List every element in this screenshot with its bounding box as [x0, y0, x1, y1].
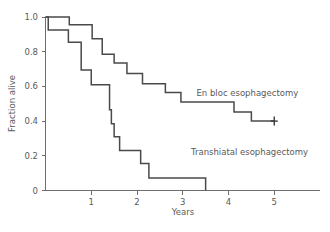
series-curve [46, 17, 206, 191]
y-tick-label: 1.0 [24, 12, 38, 22]
y-tick-label: 0.4 [24, 116, 38, 126]
series-curves [46, 17, 275, 191]
series-label: En bloc esophagectomy [196, 88, 298, 98]
y-axis-ticks [42, 17, 46, 191]
x-axis-ticks [91, 191, 274, 195]
series-inline-labels: En bloc esophagectomyTranshiatal esophag… [190, 88, 308, 157]
x-tick-label: 3 [180, 197, 185, 207]
censor-mark [271, 117, 278, 126]
y-axis-title: Fraction alive [7, 75, 17, 132]
survival-chart-figure: 00.20.40.60.81.0 12345 Fraction alive Ye… [0, 0, 330, 232]
y-axis-tick-labels: 00.20.40.60.81.0 [24, 12, 38, 196]
y-tick-label: 0.6 [24, 81, 38, 91]
survival-chart-svg: 00.20.40.60.81.0 12345 Fraction alive Ye… [0, 0, 330, 232]
x-axis-group: 12345 [46, 191, 321, 208]
y-axis-group: 00.20.40.60.81.0 [24, 12, 45, 196]
x-axis-tick-labels: 12345 [89, 197, 277, 207]
censor-marks-group [271, 117, 278, 126]
y-tick-label: 0.2 [24, 151, 38, 161]
x-tick-label: 2 [134, 197, 139, 207]
series-curve [46, 17, 275, 121]
series-label: Transhiatal esophagectomy [190, 147, 308, 157]
x-axis-title: Years [171, 207, 195, 217]
x-tick-label: 4 [226, 197, 231, 207]
x-tick-label: 5 [272, 197, 277, 207]
y-tick-label: 0.8 [24, 47, 38, 57]
y-tick-label: 0 [33, 186, 38, 196]
x-tick-label: 1 [89, 197, 94, 207]
